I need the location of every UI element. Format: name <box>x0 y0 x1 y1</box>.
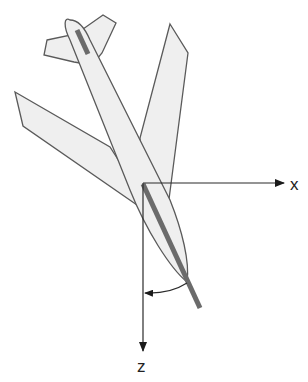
aircraft-axes-diagram: x z <box>0 0 308 382</box>
x-axis-label: x <box>290 175 299 194</box>
z-axis-label: z <box>137 357 146 376</box>
angle-arc-arrow <box>145 283 187 293</box>
